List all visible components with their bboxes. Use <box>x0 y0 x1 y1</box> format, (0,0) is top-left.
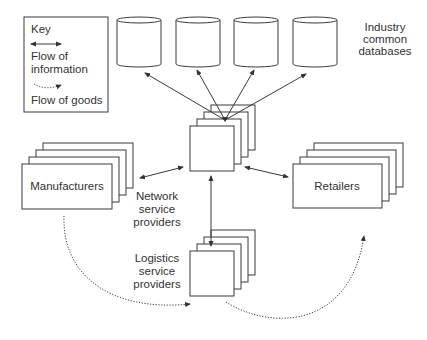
key-title: Key <box>31 23 51 35</box>
database-icon <box>293 17 337 67</box>
logistics-label-3: providers <box>133 278 181 290</box>
network-sheet-1 <box>190 126 234 171</box>
network-label-3: providers <box>133 216 181 228</box>
supply-network-diagram: Key Flow of information Flow of goods In… <box>0 0 427 340</box>
retailers-label: Retailers <box>314 180 360 192</box>
network-label-1: Network <box>136 190 178 202</box>
retailers-stack <box>293 143 403 208</box>
network-label-2: service <box>139 203 175 215</box>
info-arrow-db-1 <box>145 73 225 120</box>
info-arrow-network-retailers <box>245 167 288 177</box>
databases-label-3: databases <box>358 45 411 57</box>
logistics-providers-stack <box>190 230 255 296</box>
key-info-label-1: Flow of <box>31 50 69 62</box>
logistics-label-2: service <box>139 265 175 277</box>
database-icon <box>176 17 220 67</box>
key-info-label-2: information <box>31 63 88 75</box>
info-arrow-db-4 <box>225 74 306 120</box>
key-goods-label: Flow of goods <box>31 94 103 106</box>
logistics-label-1: Logistics <box>135 252 180 264</box>
manufacturers-label: Manufacturers <box>30 180 104 192</box>
info-arrow-manufacturers-network <box>140 167 183 178</box>
manufacturers-stack <box>22 143 133 209</box>
logistics-sheet-1 <box>190 251 234 296</box>
databases-label-2: common <box>363 33 407 45</box>
industry-databases <box>117 17 337 67</box>
database-icon <box>117 17 161 67</box>
database-icon <box>234 17 278 67</box>
key-legend: Key Flow of information Flow of goods <box>24 17 108 112</box>
databases-label-1: Industry <box>365 21 406 33</box>
